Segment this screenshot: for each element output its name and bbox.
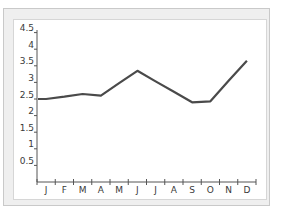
y-axis: 0.511.522.533.544.5 [20, 23, 37, 182]
y-tick-label: 2 [28, 106, 34, 116]
x-tick-label: M [79, 185, 87, 195]
x-tick-label: N [225, 185, 232, 195]
x-tick-label: J [44, 185, 48, 195]
x-tick-label: S [189, 185, 195, 195]
y-tick-label: 3 [28, 73, 34, 83]
x-tick-label: M [115, 185, 123, 195]
y-tick-label: 1 [28, 139, 34, 149]
data-line [38, 61, 247, 103]
x-tick-label: O [207, 185, 214, 195]
x-tick-label: A [98, 185, 105, 195]
x-axis: JFMAMJJASOND [37, 179, 256, 195]
y-tick-label: 3.5 [20, 56, 34, 66]
line-chart: 0.511.522.533.544.5 JFMAMJJASOND [0, 0, 282, 211]
x-tick-label: J [135, 185, 139, 195]
x-tick-label: F [62, 185, 67, 195]
x-tick-label: D [243, 185, 250, 195]
y-tick-label: 4.5 [20, 23, 34, 33]
y-tick-label: 0.5 [20, 156, 34, 166]
x-tick-label: J [153, 185, 157, 195]
x-tick-label: A [171, 185, 178, 195]
y-tick-label: 4 [28, 40, 34, 50]
y-tick-label: 1.5 [20, 123, 34, 133]
y-tick-label: 2.5 [20, 90, 34, 100]
